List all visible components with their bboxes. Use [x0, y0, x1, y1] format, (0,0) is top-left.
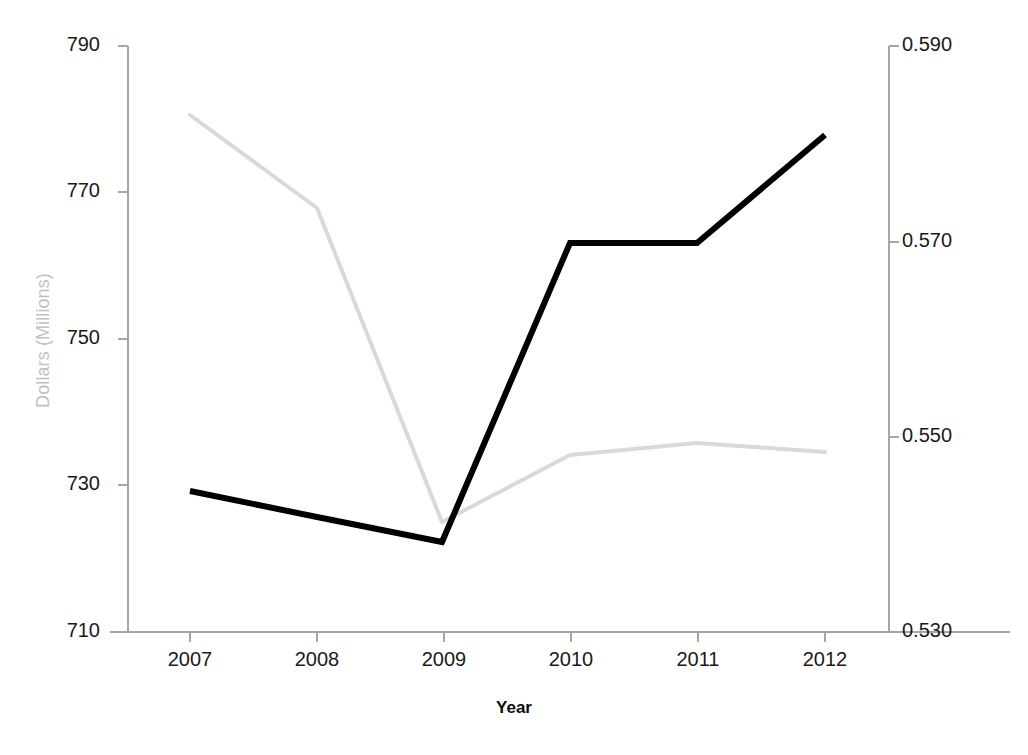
x-tick-label-2012: 2012 — [765, 648, 885, 671]
right-tick-label-0530: 0.530 — [902, 619, 952, 642]
left-tick-label-770: 770 — [30, 179, 100, 202]
x-tick-label-2008: 2008 — [257, 648, 377, 671]
left-axis-ticks — [118, 46, 128, 632]
x-tick-label-2010: 2010 — [511, 648, 631, 671]
right-tick-label-0570: 0.570 — [902, 229, 952, 252]
right-tick-label-0550: 0.550 — [902, 424, 952, 447]
left-axis-title: Dollars (Millions) — [33, 246, 54, 436]
series-line-percentage — [190, 135, 825, 542]
x-tick-label-2011: 2011 — [638, 648, 758, 671]
x-tick-label-2009: 2009 — [384, 648, 504, 671]
chart-plot-area — [0, 0, 1028, 755]
left-tick-label-730: 730 — [30, 472, 100, 495]
left-tick-label-710: 710 — [30, 619, 100, 642]
x-axis-title: Year — [0, 698, 1028, 718]
right-tick-label-0590: 0.590 — [902, 33, 952, 56]
chart-figure: 790 770 750 730 710 0.590 0.570 0.550 0.… — [0, 0, 1028, 755]
right-axis-ticks — [889, 46, 899, 632]
x-tick-label-2007: 2007 — [130, 648, 250, 671]
x-axis-ticks — [190, 632, 825, 642]
left-tick-label-790: 790 — [30, 33, 100, 56]
series-line-dollars — [190, 115, 825, 522]
